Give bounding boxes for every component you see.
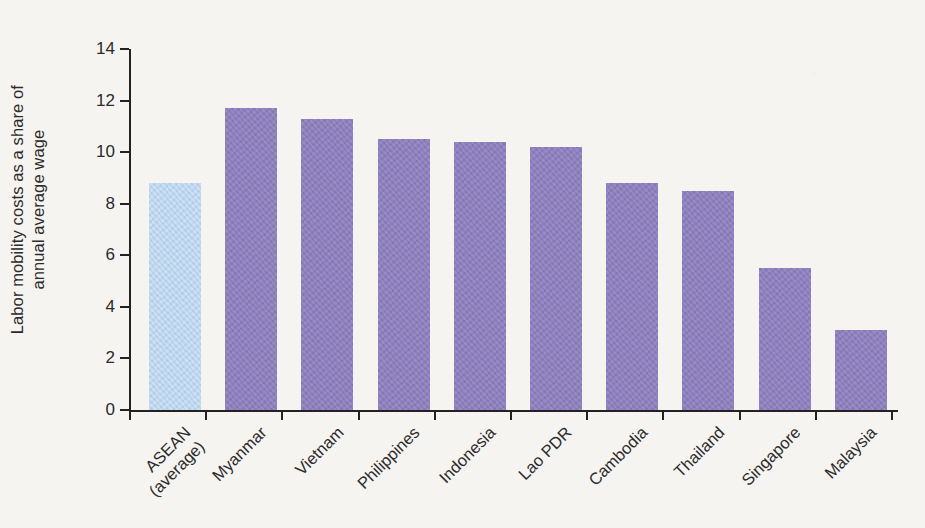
y-axis-tick-label: 10	[96, 142, 115, 162]
bar-philippines	[378, 139, 430, 410]
y-axis-title-line-1: Labor mobility costs as a share of	[7, 85, 28, 334]
x-axis-label-line: Cambodia	[585, 423, 652, 490]
bar-malaysia	[835, 330, 887, 410]
x-axis-label-line: Indonesia	[435, 423, 500, 488]
x-axis-label-line: Myanmar	[209, 423, 272, 486]
bar-lao-pdr	[530, 147, 582, 410]
y-axis-tick	[120, 254, 129, 256]
x-axis-category-label: Indonesia	[435, 423, 500, 488]
x-axis-category-label: Philippines	[353, 423, 423, 493]
x-axis-category-label: Malaysia	[821, 423, 881, 483]
bar-myanmar	[225, 108, 277, 410]
bar-chart-figure: Labor mobility costs as a share of annua…	[0, 0, 925, 528]
y-axis-tick-label: 14	[96, 39, 115, 59]
x-axis-label-line: Malaysia	[821, 423, 881, 483]
x-axis-category-label: Lao PDR	[515, 423, 576, 484]
y-axis-title-line-2: annual average wage	[28, 85, 49, 334]
x-axis-tick	[662, 410, 664, 420]
x-axis-category-label: Cambodia	[585, 423, 652, 490]
x-axis-label-line: Singapore	[738, 423, 805, 490]
x-axis-category-label: Vietnam	[291, 423, 348, 480]
y-axis-tick-label: 8	[106, 194, 115, 214]
x-axis-category-label: Thailand	[670, 423, 729, 482]
y-axis-tick-label: 2	[106, 348, 115, 368]
x-axis-category-label: Singapore	[738, 423, 805, 490]
x-axis-tick	[586, 410, 588, 420]
bar-asean-average	[149, 183, 201, 410]
y-axis-title: Labor mobility costs as a share of annua…	[0, 0, 56, 420]
bar-indonesia	[454, 142, 506, 410]
plot-area: 02468101214 ASEAN(average)MyanmarVietnam…	[129, 49, 898, 412]
x-axis-tick	[739, 410, 741, 420]
x-axis-tick	[129, 410, 131, 420]
bar-vietnam	[301, 119, 353, 410]
y-axis-tick	[120, 409, 129, 411]
x-axis-tick	[510, 410, 512, 420]
y-axis-tick-label: 0	[106, 400, 115, 420]
x-axis-tick	[434, 410, 436, 420]
x-axis-tick	[281, 410, 283, 420]
y-axis-tick	[120, 203, 129, 205]
bar-thailand	[682, 191, 734, 410]
y-axis-tick	[120, 100, 129, 102]
y-axis-line	[129, 49, 131, 412]
bar-singapore	[759, 268, 811, 410]
x-axis-line	[129, 410, 898, 412]
x-axis-tick	[205, 410, 207, 420]
y-axis-tick	[120, 48, 129, 50]
y-axis-tick	[120, 151, 129, 153]
x-axis-tick	[815, 410, 817, 420]
y-axis-tick-label: 6	[106, 245, 115, 265]
x-axis-label-line: Vietnam	[291, 423, 348, 480]
x-axis-label-line: Philippines	[353, 423, 423, 493]
x-axis-category-label: Myanmar	[209, 423, 272, 486]
x-axis-label-line: Thailand	[670, 423, 729, 482]
x-axis-category-label: ASEAN(average)	[131, 423, 209, 501]
bar-cambodia	[606, 183, 658, 410]
x-axis-tick	[891, 410, 893, 420]
x-axis-label-line: Lao PDR	[515, 423, 576, 484]
x-axis-tick	[358, 410, 360, 420]
y-axis-tick	[120, 357, 129, 359]
y-axis-tick	[120, 306, 129, 308]
y-axis-tick-label: 12	[96, 91, 115, 111]
y-axis-tick-label: 4	[106, 297, 115, 317]
